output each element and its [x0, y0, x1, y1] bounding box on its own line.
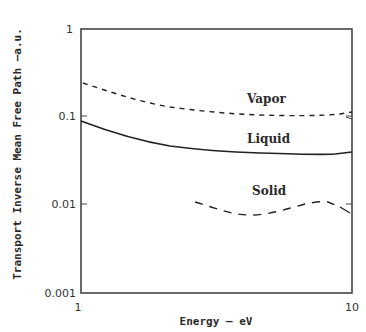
- vapor-label: Vapor: [246, 92, 286, 106]
- x-tick-label: 1: [75, 301, 82, 314]
- chart: 1 0.1 0.01 0.001 1 10 Energy – eV Transp…: [0, 0, 366, 332]
- solid-label: Solid: [252, 184, 287, 198]
- solid-curve: [195, 202, 338, 215]
- vapor-curve: [83, 83, 352, 116]
- solid-curve-end: [340, 207, 350, 213]
- y-tick-label: 1: [66, 23, 73, 36]
- x-tick-label: 10: [345, 301, 359, 314]
- y-tick-label: 0.001: [45, 287, 77, 300]
- y-tick-label: 0.1: [59, 110, 77, 123]
- vapor-curve-end-flick: [346, 117, 352, 119]
- y-axis: 1 0.1 0.01 0.001: [45, 23, 353, 300]
- liquid-label: Liquid: [247, 132, 291, 146]
- x-axis: 1 10: [75, 301, 360, 314]
- plot-frame: [81, 29, 352, 293]
- liquid-curve: [81, 121, 352, 154]
- y-tick-label: 0.01: [52, 198, 77, 211]
- x-axis-title: Energy – eV: [180, 315, 253, 328]
- y-axis-title: Transport Inverse Mean Free Path –a.u.: [11, 28, 24, 280]
